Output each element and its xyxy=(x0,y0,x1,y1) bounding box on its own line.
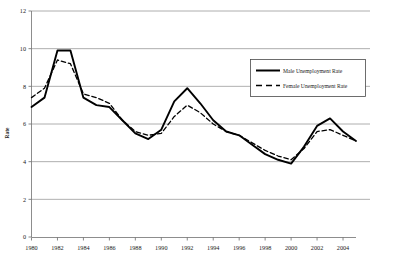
x-tick-label-1982: 1982 xyxy=(51,244,63,251)
x-tick-label-2004: 2004 xyxy=(337,244,349,251)
legend-border xyxy=(251,60,366,97)
x-tick-label-1998: 1998 xyxy=(259,244,271,251)
y-axis-title: Rate xyxy=(4,127,10,138)
y-tick-label-4: 4 xyxy=(23,158,26,165)
y-tick-label-10: 10 xyxy=(20,45,26,52)
legend-label-female: Female Unemployment Rate xyxy=(283,83,348,89)
y-tick-label-12: 12 xyxy=(20,7,26,14)
x-tick-label-1996: 1996 xyxy=(233,244,245,251)
x-tick-label-1990: 1990 xyxy=(155,244,167,251)
chart-background xyxy=(0,0,399,261)
legend-label-male: Male Unemployment Rate xyxy=(283,68,343,74)
unemployment-rate-line-chart: 024681012 198019821984198619881990199219… xyxy=(0,0,399,261)
y-tick-label-2: 2 xyxy=(23,196,26,203)
x-tick-label-1992: 1992 xyxy=(181,244,193,251)
x-tick-label-1980: 1980 xyxy=(25,244,37,251)
y-tick-label-0: 0 xyxy=(23,233,26,240)
x-tick-label-2000: 2000 xyxy=(285,244,297,251)
chart-legend: Male Unemployment RateFemale Unemploymen… xyxy=(251,60,366,97)
x-tick-label-1986: 1986 xyxy=(103,244,115,251)
x-tick-label-1984: 1984 xyxy=(77,244,89,251)
chart-container: 024681012 198019821984198619881990199219… xyxy=(0,0,399,261)
y-tick-label-8: 8 xyxy=(23,83,26,90)
x-tick-label-1994: 1994 xyxy=(207,244,219,251)
x-tick-label-1988: 1988 xyxy=(129,244,141,251)
y-tick-label-6: 6 xyxy=(23,120,26,127)
x-tick-label-2002: 2002 xyxy=(311,244,323,251)
